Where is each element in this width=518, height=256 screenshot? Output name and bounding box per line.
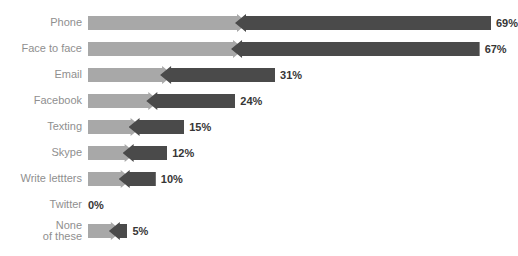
dark-arrow-left — [123, 144, 168, 162]
category-label: Email — [0, 62, 82, 88]
category-label: Facebook — [0, 88, 82, 114]
dark-arrow-left — [146, 92, 235, 110]
clipped-title — [96, 0, 216, 3]
chart-row: Email 31% — [0, 62, 384, 88]
chart-row: Phone 69% — [0, 10, 384, 36]
dark-arrow-left — [129, 118, 185, 136]
category-label-line1: Email — [54, 69, 82, 81]
dark-arrow-left — [119, 170, 156, 188]
dark-arrow-left — [160, 66, 275, 84]
category-label: Skype — [0, 140, 82, 166]
bar-track: 15% — [88, 114, 384, 140]
value-label: 31% — [280, 62, 302, 88]
light-arrow-right — [88, 14, 248, 32]
value-label: 5% — [132, 218, 148, 244]
category-label-line1: Phone — [50, 17, 82, 29]
chart-row: Twitter 0% — [0, 192, 384, 218]
dark-arrow-left — [231, 40, 480, 58]
light-arrow-right — [88, 40, 244, 58]
chart-row: Skype 12% — [0, 140, 384, 166]
chart-row: Write lettters 10% — [0, 166, 384, 192]
dark-arrow-left — [235, 14, 491, 32]
category-label: None of these — [0, 218, 82, 244]
category-label-line1: Twitter — [50, 199, 82, 211]
category-label: Face to face — [0, 36, 82, 62]
bar-track: 10% — [88, 166, 384, 192]
value-label: 24% — [240, 88, 262, 114]
category-label: Write lettters — [0, 166, 82, 192]
bar-track: 24% — [88, 88, 384, 114]
category-label-line1: Write lettters — [20, 173, 82, 185]
category-label: Phone — [0, 10, 82, 36]
bar-track: 31% — [88, 62, 384, 88]
bar-track: 67% — [88, 36, 384, 62]
value-label: 69% — [496, 10, 518, 36]
bar-track: 69% — [88, 10, 384, 36]
chart-rows: Phone 69% Face to face 67 — [0, 10, 384, 244]
bar-track: 0% — [88, 192, 384, 218]
category-label: Texting — [0, 114, 82, 140]
category-label-line2: of these — [43, 231, 82, 243]
category-label-line1: Facebook — [34, 95, 82, 107]
chart-row: Facebook 24% — [0, 88, 384, 114]
bar-track: 12% — [88, 140, 384, 166]
value-label: 0% — [88, 192, 104, 218]
category-label-line1: Face to face — [21, 43, 82, 55]
bar-track: 5% — [88, 218, 384, 244]
category-label-line1: Skype — [51, 147, 82, 159]
value-label: 10% — [161, 166, 183, 192]
chart-row: Texting 15% — [0, 114, 384, 140]
chart-row: None of these 5% — [0, 218, 384, 244]
chart-row: Face to face 67% — [0, 36, 384, 62]
value-label: 15% — [189, 114, 211, 140]
category-label-line1: Texting — [47, 121, 82, 133]
category-label: Twitter — [0, 192, 82, 218]
value-label: 67% — [485, 36, 507, 62]
value-label: 12% — [172, 140, 194, 166]
